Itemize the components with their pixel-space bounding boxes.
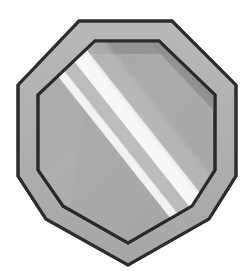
illustration-canvas: Nonagon plate illustration nine-sided po… [0,0,250,271]
nonagon-illustration [0,0,250,271]
